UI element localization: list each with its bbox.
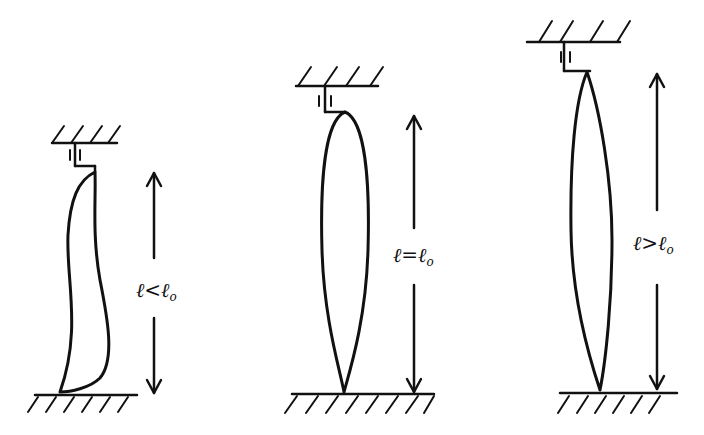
sample-curve-short (60, 172, 109, 392)
panel-short: ℓ<ℓo (28, 126, 177, 412)
top-support-hatched (52, 126, 120, 143)
top-support-hatched (527, 21, 630, 42)
bottom-support-hatched (28, 395, 137, 412)
length-label-long: ℓ>ℓo (633, 231, 674, 257)
sample-curve-equal (322, 112, 369, 392)
diagram-canvas: ℓ<ℓo (0, 0, 704, 435)
bottom-support-hatched (285, 394, 434, 413)
clamp (561, 42, 590, 71)
panel-long: ℓ>ℓo (527, 21, 677, 413)
clamp (70, 143, 95, 172)
sample-curve-long (571, 72, 612, 390)
bottom-support-hatched (558, 393, 677, 413)
panel-equal: ℓ=ℓo (285, 67, 434, 413)
length-label-equal: ℓ=ℓo (393, 243, 434, 269)
top-support-hatched (296, 67, 383, 86)
clamp (319, 86, 345, 112)
length-label-short: ℓ<ℓo (136, 278, 177, 304)
